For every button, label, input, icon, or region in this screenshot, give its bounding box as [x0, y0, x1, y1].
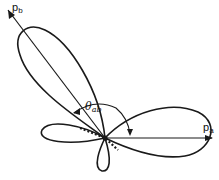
label-pa: pa	[203, 122, 214, 135]
lobe-pa	[105, 107, 211, 157]
label-pa-sub: a	[209, 126, 213, 135]
theta-sub: ab	[92, 105, 102, 114]
lobe-diagram	[0, 0, 219, 180]
angle-arrow-left-icon	[73, 108, 80, 115]
label-pb-sub: b	[18, 6, 22, 15]
lobe-lower	[97, 138, 109, 171]
vector-pb	[8, 10, 105, 138]
origin-point	[103, 136, 108, 141]
angle-arrow-right-icon	[127, 129, 133, 136]
theta-main: θ	[85, 100, 92, 113]
label-pb: pb	[12, 2, 23, 15]
label-theta-ab: θab	[85, 101, 102, 114]
